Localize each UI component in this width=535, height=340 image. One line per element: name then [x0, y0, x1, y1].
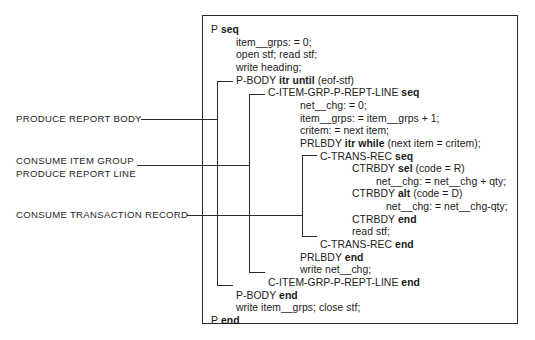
annotation-produce-report-body: PRODUCE REPORT BODY — [16, 113, 142, 125]
code-line: CTRBDY sel (code = R) — [352, 163, 465, 175]
code-text: item__grps: = 0; — [236, 37, 312, 48]
code-text: open stf; read stf; — [236, 49, 317, 60]
code-condition: (eof-stf) — [315, 75, 354, 86]
code-text: P — [211, 315, 218, 326]
code-line: C-TRANS-REC end — [320, 239, 414, 251]
code-line: open stf; read stf; — [236, 49, 317, 61]
code-text: C-ITEM-GRP-P-REPT-LINE — [268, 277, 398, 288]
trans-rec-bracket — [303, 156, 317, 237]
code-keyword: end — [218, 315, 240, 326]
annotation-consume-transaction-record: CONSUME TRANSACTION RECORD — [16, 209, 188, 221]
code-keyword: seq — [398, 87, 419, 98]
code-line: net__chg: = net__chg-qty; — [386, 201, 508, 213]
code-line: CTRBDY alt (code = D) — [352, 188, 462, 200]
code-keyword: itr while — [342, 138, 385, 149]
code-text: write heading; — [236, 62, 301, 73]
annotation-produce-report-line: PRODUCE REPORT LINE — [16, 168, 136, 180]
code-keyword: itr until — [276, 75, 315, 86]
code-text: P — [211, 24, 218, 35]
code-text: P-BODY — [236, 290, 276, 301]
code-line: critem: = next item; — [300, 125, 389, 137]
code-text: item__grps: = item__grps + 1; — [300, 113, 440, 124]
code-line: PRLBDY end — [300, 252, 363, 264]
code-condition: (code = R) — [413, 163, 465, 174]
code-line: write net__chg; — [300, 264, 371, 276]
code-line: net__chg: = net__chg + qty; — [376, 176, 506, 188]
code-text: C-ITEM-GRP-P-REPT-LINE — [268, 87, 398, 98]
code-line: C-ITEM-GRP-P-REPT-LINE end — [268, 277, 420, 289]
code-text: critem: = next item; — [300, 125, 389, 136]
code-text: write item__grps; close stf; — [236, 302, 360, 313]
code-line: PRLBDY itr while (next item = critem); — [300, 138, 481, 150]
code-text: net__chg: = net__chg-qty; — [386, 201, 508, 212]
item-group-bracket — [250, 95, 265, 273]
code-line: C-TRANS-REC seq — [320, 151, 413, 163]
code-text: PRLBDY — [300, 252, 342, 263]
code-text: P-BODY — [236, 75, 276, 86]
code-line: read stf; — [352, 226, 390, 238]
code-line: write item__grps; close stf; — [236, 302, 360, 314]
code-text: C-TRANS-REC — [320, 239, 392, 250]
code-line: C-ITEM-GRP-P-REPT-LINE seq — [268, 87, 419, 99]
code-condition: (next item = critem); — [385, 138, 481, 149]
code-keyword: end — [392, 239, 414, 250]
code-text: PRLBDY — [300, 138, 342, 149]
code-keyword: end — [342, 252, 364, 263]
code-text: net__chg: = net__chg + qty; — [376, 176, 506, 187]
code-text: write net__chg; — [300, 264, 371, 275]
code-text: CTRBDY — [352, 163, 395, 174]
code-line: P seq — [211, 24, 239, 36]
code-keyword: seq — [392, 151, 413, 162]
code-line: P end — [211, 315, 240, 327]
code-condition: (code = D) — [410, 188, 462, 199]
code-text: CTRBDY — [352, 214, 395, 225]
code-line: item__grps: = item__grps + 1; — [300, 113, 440, 125]
code-keyword: seq — [218, 24, 239, 35]
annotation-consume-item-group: CONSUME ITEM GROUP — [16, 155, 134, 167]
code-text: net__chg: = 0; — [300, 100, 367, 111]
code-keyword: end — [276, 290, 298, 301]
code-line: write heading; — [236, 62, 301, 74]
code-line: CTRBDY end — [352, 214, 417, 226]
p-body-bracket — [218, 82, 233, 286]
code-line: item__grps: = 0; — [236, 37, 312, 49]
code-line: P-BODY end — [236, 290, 298, 302]
code-keyword: sel — [395, 163, 413, 174]
code-line: net__chg: = 0; — [300, 100, 367, 112]
code-line: P-BODY itr until (eof-stf) — [236, 75, 354, 87]
code-text: C-TRANS-REC — [320, 151, 392, 162]
code-keyword: end — [398, 277, 420, 288]
code-text: CTRBDY — [352, 188, 395, 199]
code-text: read stf; — [352, 226, 390, 237]
code-keyword: end — [395, 214, 417, 225]
code-keyword: alt — [395, 188, 410, 199]
